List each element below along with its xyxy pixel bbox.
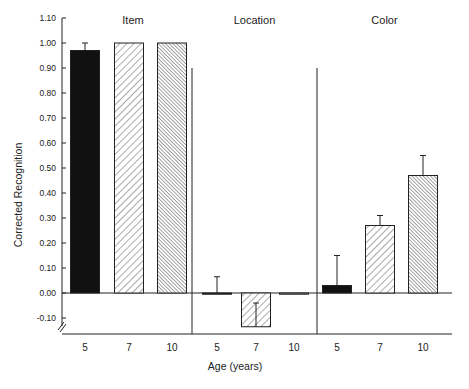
x-tick-label: 10 [166, 342, 178, 353]
panel-item: Item [62, 14, 192, 293]
panel-location: Location [192, 14, 317, 334]
bar-age-5 [203, 293, 232, 294]
x-axis-label: Age (years) [208, 360, 262, 372]
bar-age-5 [323, 286, 352, 294]
bar-age-5 [71, 51, 100, 294]
bar-age-7 [115, 43, 144, 293]
axis-break-mark [58, 322, 64, 330]
x-tick-label: 5 [334, 342, 340, 353]
bar-age-10 [409, 176, 438, 294]
y-tick-label: 1.10 [39, 13, 56, 23]
y-tick-label: 0.70 [39, 113, 56, 123]
x-tick-label: 5 [82, 342, 88, 353]
y-tick-label: 0.90 [39, 63, 56, 73]
y-tick-label: 1.00 [39, 38, 56, 48]
y-tick-label: -0.10 [37, 313, 57, 323]
y-tick-label: 0.50 [39, 163, 56, 173]
panel-title: Item [122, 14, 143, 26]
y-tick-label: 0.30 [39, 213, 56, 223]
x-tick-label: 7 [377, 342, 383, 353]
x-tick-label: 5 [214, 342, 220, 353]
x-tick-label: 7 [126, 342, 132, 353]
bar-age-10 [280, 293, 309, 294]
y-tick-label: 0.20 [39, 238, 56, 248]
chart-panels: ItemLocationColor [62, 14, 452, 334]
y-axis-label: Corrected Recognition [12, 143, 24, 248]
y-tick-label: 0.40 [39, 188, 56, 198]
y-tick-label: 0.00 [39, 288, 56, 298]
y-tick-label: 0.80 [39, 88, 56, 98]
axis-break-mark [60, 324, 66, 332]
panel-title: Color [371, 14, 398, 26]
y-tick-label: 0.60 [39, 138, 56, 148]
bar-age-7 [366, 226, 395, 294]
bar-age-10 [158, 43, 187, 293]
x-tick-label: 10 [417, 342, 429, 353]
bar-chart: 1.101.000.900.800.700.600.500.400.300.20… [0, 0, 469, 389]
y-tick-label: 0.10 [39, 263, 56, 273]
panel-color: Color [317, 14, 452, 334]
x-tick-label: 7 [253, 342, 259, 353]
x-tick-label: 10 [288, 342, 300, 353]
x-axis: 571057105710 [62, 334, 452, 353]
y-axis: 1.101.000.900.800.700.600.500.400.300.20… [37, 13, 66, 332]
panel-title: Location [234, 14, 276, 26]
